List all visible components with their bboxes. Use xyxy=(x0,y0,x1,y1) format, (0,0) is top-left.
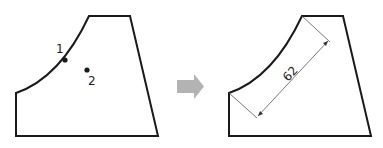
left-shape: 1 2 xyxy=(16,16,158,136)
point-2-marker xyxy=(84,67,89,72)
extension-line-top xyxy=(302,16,330,42)
point-1-label: 1 xyxy=(56,42,64,56)
transform-arrow-icon xyxy=(177,74,204,99)
left-outline xyxy=(16,16,158,136)
point-1-marker xyxy=(62,57,67,62)
right-outline xyxy=(229,16,371,136)
dimension-value-label: 62 xyxy=(280,63,301,84)
extension-line-bottom xyxy=(229,93,257,118)
diagram-canvas: 1 2 62 xyxy=(0,0,383,148)
point-2-label: 2 xyxy=(88,74,96,88)
right-shape: 62 xyxy=(229,16,371,136)
diagram-svg: 1 2 62 xyxy=(0,0,383,148)
